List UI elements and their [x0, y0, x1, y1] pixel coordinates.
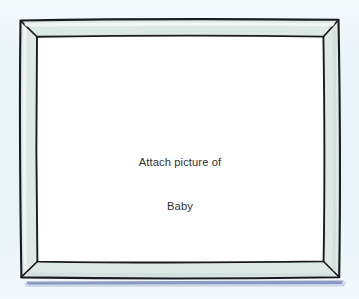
picture-frame[interactable]: [0, 0, 359, 299]
frame-mat-opening: [37, 36, 325, 263]
picture-frame-drawing: [0, 0, 359, 299]
page-canvas: Attach picture of Baby: [0, 0, 359, 299]
